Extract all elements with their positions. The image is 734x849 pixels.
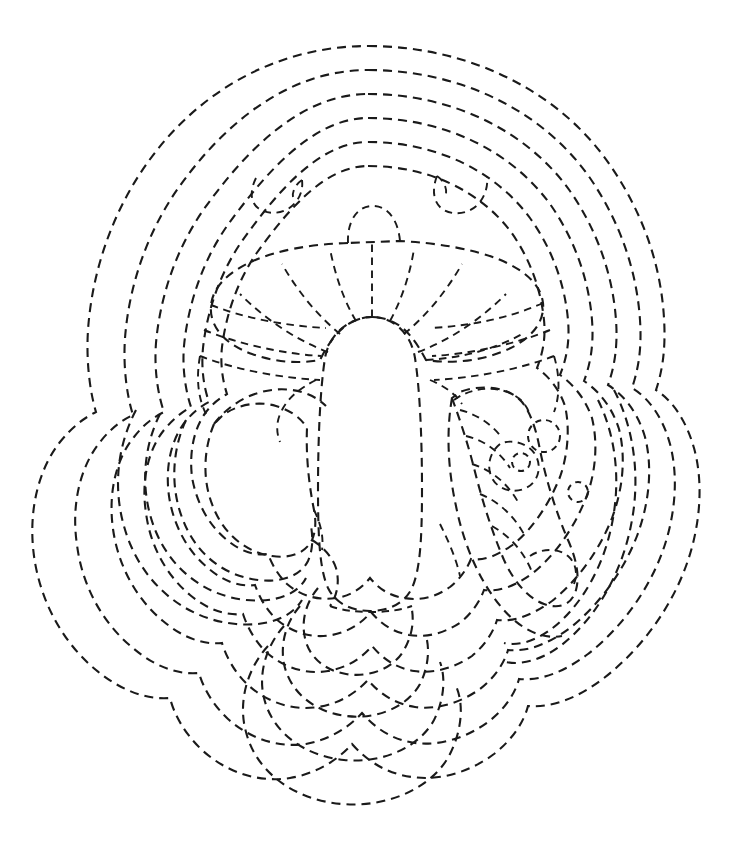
pattern-drawing <box>0 0 734 849</box>
background <box>0 0 734 849</box>
pattern-canvas <box>0 0 734 849</box>
